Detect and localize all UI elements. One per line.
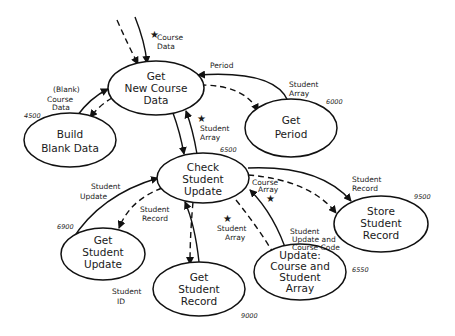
svg-text:Student: Student	[352, 175, 382, 184]
svg-text:(Blank): (Blank)	[53, 85, 80, 94]
node-get-period: Get Period 6000	[245, 98, 343, 157]
svg-text:Update: Update	[84, 258, 122, 270]
label-student-id: Student ID	[112, 287, 142, 306]
svg-text:Data: Data	[157, 42, 175, 51]
label-student-array-bottom: ★ Student Array	[217, 213, 247, 242]
label-course-array: Course Array ★	[252, 178, 279, 204]
svg-text:Array: Array	[289, 89, 310, 98]
svg-text:★: ★	[197, 113, 206, 124]
node-check-student-update: Check Student Update 6500	[157, 146, 249, 203]
svg-text:Get: Get	[94, 234, 113, 246]
svg-text:Student: Student	[200, 124, 230, 133]
svg-text:6550: 6550	[352, 266, 369, 274]
svg-text:Course: Course	[157, 33, 184, 42]
flow-getnew-to-check	[173, 113, 184, 154]
svg-text:ID: ID	[117, 297, 125, 306]
svg-text:★: ★	[266, 193, 275, 204]
svg-text:6000: 6000	[326, 98, 343, 106]
label-period: Period	[210, 61, 234, 70]
flow-top-dashed	[117, 20, 138, 64]
svg-text:Student: Student	[360, 217, 401, 229]
label-student-update-course-code: Student Update and Course Code	[290, 227, 340, 252]
label-course-data-top: ★ Course Data	[150, 29, 184, 51]
svg-text:Data: Data	[52, 103, 70, 112]
svg-text:Get: Get	[282, 114, 301, 126]
flow-top-solid	[135, 17, 147, 63]
svg-text:Student: Student	[112, 287, 142, 296]
svg-text:Student: Student	[182, 173, 223, 185]
svg-text:★: ★	[223, 213, 232, 224]
svg-text:Period: Period	[210, 61, 234, 70]
label-student-array-period: Student Array	[289, 80, 319, 98]
svg-text:Student: Student	[217, 224, 247, 233]
node-store-student-record: Store Student Record 9500	[334, 193, 431, 252]
flow-build-to-getnew	[77, 89, 108, 116]
svg-text:4500: 4500	[24, 112, 41, 120]
svg-text:Get: Get	[190, 271, 209, 283]
svg-text:Check: Check	[187, 161, 220, 173]
svg-text:6900: 6900	[57, 223, 74, 231]
node-get-student-record: Get Student Record 9000	[153, 262, 258, 320]
node-get-student-update: Get Student Update 6900	[57, 223, 145, 280]
svg-text:Record: Record	[363, 229, 399, 241]
svg-text:9500: 9500	[414, 193, 431, 201]
svg-text:Array: Array	[286, 282, 314, 294]
svg-text:Array: Array	[225, 233, 246, 242]
label-student-record-right: Student Record	[352, 175, 382, 193]
node-update-course-and-student-array: Update: Course and Student Array 6550	[254, 244, 369, 300]
label-student-record-left: Student Record	[140, 205, 170, 223]
svg-text:Array: Array	[200, 133, 221, 142]
structure-chart-diagram: Get New Course Data Build Blank Data 450…	[0, 0, 455, 336]
label-student-update: Student Update	[80, 182, 121, 201]
node-build-blank-data: Build Blank Data 4500	[24, 112, 116, 167]
label-student-array-check: ★ Student Array	[197, 113, 230, 142]
node-get-new-course-data: Get New Course Data	[108, 61, 204, 115]
svg-text:Blank Data: Blank Data	[41, 142, 99, 154]
flow-getnew-to-build	[90, 98, 112, 117]
svg-text:Student: Student	[91, 182, 121, 191]
svg-text:Update: Update	[80, 192, 108, 201]
svg-text:New Course: New Course	[125, 82, 188, 94]
svg-text:Student: Student	[140, 205, 170, 214]
svg-text:Period: Period	[275, 128, 308, 140]
svg-text:Record: Record	[352, 184, 378, 193]
svg-text:Build: Build	[57, 128, 83, 140]
flow-check-to-getnew	[186, 111, 197, 154]
flow-getnew-to-period	[200, 85, 258, 111]
svg-text:Get: Get	[147, 70, 166, 82]
flow-record-to-check	[185, 202, 199, 262]
svg-text:Data: Data	[143, 94, 168, 106]
svg-text:6500: 6500	[220, 146, 237, 154]
flow-check-to-record	[190, 202, 193, 264]
svg-text:Record: Record	[181, 295, 217, 307]
svg-text:Student: Student	[82, 246, 123, 258]
svg-text:Record: Record	[142, 214, 168, 223]
svg-text:Student: Student	[178, 283, 219, 295]
svg-text:Student: Student	[289, 80, 319, 89]
svg-text:9000: 9000	[241, 312, 258, 320]
svg-text:Update: Update	[184, 185, 222, 197]
flow-period-to-getnew	[198, 74, 288, 101]
label-blank-course-data: (Blank) Course Data	[47, 85, 80, 112]
svg-text:Course Code: Course Code	[292, 243, 340, 252]
svg-text:Store: Store	[367, 205, 395, 217]
